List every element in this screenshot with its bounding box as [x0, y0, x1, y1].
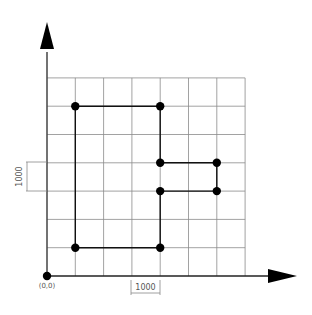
vertex-point	[43, 272, 51, 280]
vertex-point	[156, 187, 164, 195]
y-dimension-label: 1000	[15, 166, 24, 186]
vertex-point	[213, 187, 221, 195]
y-axis-arrow-icon	[40, 22, 54, 49]
dimensions: 1000 1000	[15, 162, 160, 295]
outline-polyline	[75, 106, 217, 248]
vertex-point	[156, 159, 164, 167]
origin-label: (0,0)	[39, 282, 56, 290]
vertex-point	[71, 244, 79, 252]
vertex-point	[71, 102, 79, 110]
vertex-point	[156, 102, 164, 110]
coordinate-diagram: 1000 1000 (0,0)	[0, 0, 312, 315]
x-dimension-label: 1000	[135, 283, 155, 292]
outline-path	[75, 106, 217, 248]
vertex-point	[156, 244, 164, 252]
vertex-point	[213, 159, 221, 167]
x-axis-arrow-icon	[268, 269, 297, 283]
axes	[40, 22, 297, 283]
